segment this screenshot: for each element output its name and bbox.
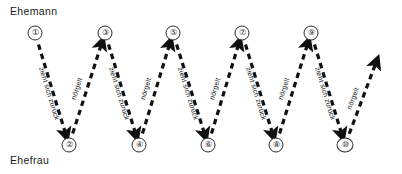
vertex-marker-v10: ⑩ bbox=[337, 138, 354, 153]
arrow-down bbox=[108, 44, 135, 134]
vertex-marker-v9: ⑨ bbox=[304, 26, 319, 41]
diagram-canvas: Ehemann Ehefrau ①②③④⑤⑥⑦⑧⑨⑩ zieht sich zu… bbox=[0, 0, 402, 174]
vertex-marker-v6: ⑥ bbox=[201, 138, 216, 153]
vertex-marker-v3: ③ bbox=[98, 26, 113, 41]
arrow-down bbox=[245, 44, 272, 134]
vertex-marker-v1: ① bbox=[28, 26, 43, 41]
vertex-marker-v2: ② bbox=[62, 138, 77, 153]
vertex-marker-v4: ④ bbox=[132, 138, 147, 153]
vertex-marker-v8: ⑧ bbox=[269, 138, 284, 153]
vertex-marker-v7: ⑦ bbox=[235, 26, 250, 41]
arrow-down bbox=[38, 44, 65, 134]
vertex-marker-v5: ⑤ bbox=[166, 26, 181, 41]
arrow-down bbox=[314, 44, 341, 134]
